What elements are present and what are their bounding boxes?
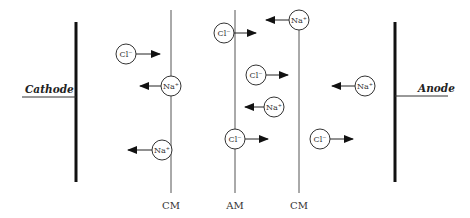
ion-cl-4: Cl⁻ <box>225 129 268 149</box>
svg-text:Cl⁻: Cl⁻ <box>229 135 242 144</box>
svg-text:Na⁺: Na⁺ <box>357 82 373 91</box>
cathode-electrode: Cathode <box>22 22 76 182</box>
ion-na-5: Na⁺ <box>332 76 375 96</box>
ion-cl-3: Cl⁻ <box>246 65 288 85</box>
anode-electrode: Anode <box>395 22 455 182</box>
anode-label: Anode <box>417 82 455 94</box>
svg-text:Cl⁻: Cl⁻ <box>314 135 327 144</box>
membrane-label-cm-1: CM <box>162 200 180 211</box>
svg-text:Cl⁻: Cl⁻ <box>218 29 231 38</box>
svg-text:Na⁺: Na⁺ <box>291 16 307 25</box>
svg-text:Cl⁻: Cl⁻ <box>250 71 263 80</box>
svg-text:Na⁺: Na⁺ <box>266 103 282 112</box>
electrodialysis-diagram: Cathode Anode CM AM CM Cl⁻ Na⁺ <box>0 0 470 218</box>
svg-text:Na⁺: Na⁺ <box>163 82 179 91</box>
membrane-label-cm-2: CM <box>290 200 308 211</box>
ion-na-2: Na⁺ <box>128 140 172 160</box>
ion-cl-5: Cl⁻ <box>310 129 353 149</box>
svg-text:Cl⁻: Cl⁻ <box>120 50 133 59</box>
ion-na-4: Na⁺ <box>245 97 284 117</box>
ion-cl-1: Cl⁻ <box>116 44 160 64</box>
ion-na-3: Na⁺ <box>266 10 309 30</box>
cathode-label: Cathode <box>25 83 74 95</box>
membrane-label-am: AM <box>225 200 243 211</box>
ion-na-1: Na⁺ <box>140 76 181 96</box>
svg-text:Na⁺: Na⁺ <box>154 146 170 155</box>
membranes: CM AM CM <box>162 10 308 211</box>
